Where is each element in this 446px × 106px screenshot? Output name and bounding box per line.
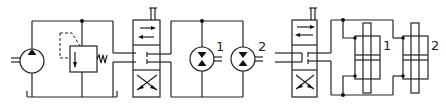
cylinder-2 (401, 23, 428, 93)
hydraulic-motor-2 (231, 21, 263, 97)
directional-valve-1 (133, 8, 160, 97)
cylinder-2-label: 2 (431, 38, 439, 53)
pump-symbol (11, 21, 44, 97)
motor-2-label: 2 (258, 39, 266, 54)
diagram-canvas: 1 2 (0, 0, 446, 106)
relief-valve-symbol (60, 21, 107, 97)
motor-1-label: 1 (216, 39, 224, 54)
cylinder-1 (343, 20, 380, 95)
hydraulic-motor-1 (190, 21, 222, 97)
hydraulic-diagram: 1 2 (0, 0, 446, 106)
cylinder-1-label: 1 (383, 38, 391, 53)
